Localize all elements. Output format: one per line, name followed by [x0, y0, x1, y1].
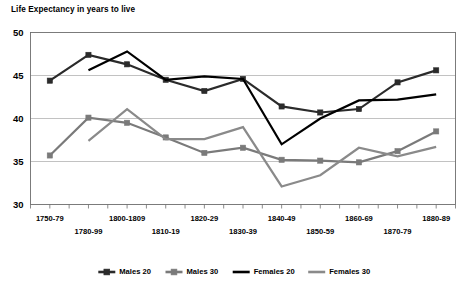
data-point-marker: [395, 80, 400, 85]
x-tick-label: 1780-99: [75, 227, 103, 236]
series-line: [50, 55, 436, 113]
y-tick-label: 30: [13, 199, 24, 210]
x-tick-label: 1830-39: [229, 227, 257, 236]
line-chart-plot: 3035404550 1750-791780-991800-18091810-1…: [0, 0, 469, 288]
data-point-marker: [395, 149, 400, 154]
y-tick-label: 50: [13, 27, 24, 38]
data-point-marker: [124, 62, 129, 67]
legend-label: Males 30: [187, 267, 219, 276]
data-point-marker: [86, 115, 91, 120]
x-tick-label: 1840-49: [268, 214, 296, 223]
data-point-marker: [124, 120, 129, 125]
data-point-marker: [356, 106, 361, 111]
data-series-group: [47, 51, 439, 186]
series-line: [88, 51, 436, 144]
y-axis-tick-labels: 3035404550: [13, 27, 24, 210]
legend-marker: [171, 269, 177, 275]
data-point-marker: [434, 129, 439, 134]
x-axis-ticks: [31, 205, 456, 209]
y-tick-label: 35: [13, 156, 24, 167]
data-point-marker: [86, 52, 91, 57]
legend-label: Females 30: [329, 267, 370, 276]
x-tick-label: 1800-1809: [109, 214, 145, 223]
series-line: [88, 109, 436, 186]
chart-container: Life Expectancy in years to live 3035404…: [0, 0, 469, 288]
data-point-marker: [202, 88, 207, 93]
series-males-30: [47, 115, 439, 165]
x-tick-label: 1750-79: [36, 214, 64, 223]
x-tick-label: 1820-29: [190, 214, 218, 223]
series-females-30: [88, 109, 436, 186]
data-point-marker: [279, 104, 284, 109]
x-tick-label: 1850-59: [306, 227, 334, 236]
data-point-marker: [318, 110, 323, 115]
data-point-marker: [202, 150, 207, 155]
x-axis-tick-labels: 1750-791780-991800-18091810-191820-29183…: [36, 214, 450, 236]
x-tick-label: 1810-19: [152, 227, 180, 236]
data-point-marker: [47, 78, 52, 83]
series-females-20: [88, 51, 436, 144]
x-tick-label: 1880-89: [422, 214, 450, 223]
chart-legend: Males 20Males 30Females 20Females 30: [98, 267, 370, 276]
legend-label: Males 20: [119, 267, 151, 276]
data-point-marker: [47, 153, 52, 158]
legend-marker: [104, 269, 110, 275]
data-point-marker: [318, 158, 323, 163]
x-tick-label: 1860-69: [345, 214, 373, 223]
y-tick-label: 40: [13, 113, 24, 124]
y-tick-label: 45: [13, 70, 24, 81]
data-point-marker: [240, 145, 245, 150]
data-point-marker: [356, 160, 361, 165]
x-tick-label: 1870-79: [384, 227, 412, 236]
data-point-marker: [279, 157, 284, 162]
data-point-marker: [434, 68, 439, 73]
legend-label: Females 20: [254, 267, 295, 276]
